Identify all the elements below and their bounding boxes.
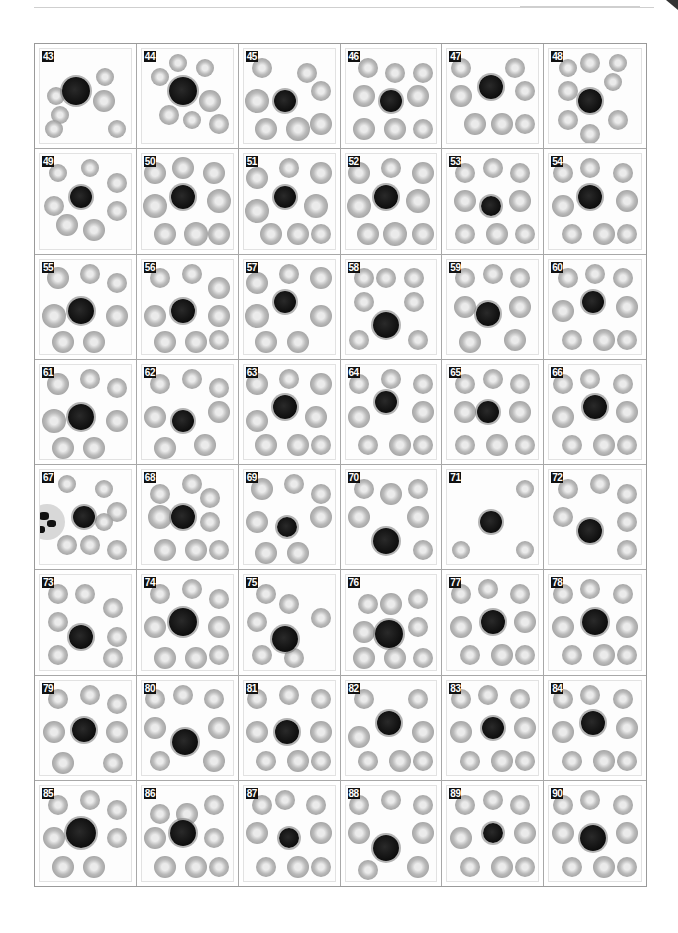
red-blood-cell <box>348 822 370 844</box>
red-blood-cell <box>256 857 276 877</box>
lymphocyte-nucleus <box>273 395 297 419</box>
lymphocyte-nucleus <box>171 505 195 529</box>
cell-number-label: 45 <box>246 51 258 62</box>
red-blood-cell <box>412 401 434 423</box>
red-blood-cell <box>580 685 600 705</box>
lymphocyte-nucleus <box>482 717 504 739</box>
cell-number-label: 51 <box>246 156 258 167</box>
micrograph-cell: 48 <box>544 44 646 149</box>
micrograph-image: 52 <box>345 153 438 249</box>
red-blood-cell <box>455 435 475 455</box>
micrograph-cell: 55 <box>35 255 137 360</box>
red-blood-cell <box>514 611 536 633</box>
red-blood-cell <box>311 751 331 771</box>
micrograph-cell: 74 <box>137 570 239 675</box>
red-blood-cell <box>383 222 407 246</box>
red-blood-cell <box>83 331 105 353</box>
red-blood-cell <box>48 645 68 665</box>
red-blood-cell <box>107 173 127 193</box>
cell-number-label: 50 <box>144 156 156 167</box>
red-blood-cell <box>275 790 295 810</box>
red-blood-cell <box>185 647 207 669</box>
red-blood-cell <box>150 484 170 504</box>
red-blood-cell <box>144 305 166 327</box>
red-blood-cell <box>562 751 582 771</box>
red-blood-cell <box>208 616 230 638</box>
red-blood-cell <box>353 85 375 107</box>
cell-number-label: 73 <box>42 577 54 588</box>
lymphocyte-nucleus <box>274 90 296 112</box>
micrograph-image: 47 <box>446 48 539 144</box>
red-blood-cell <box>196 59 214 77</box>
red-blood-cell <box>311 484 331 504</box>
micrograph-cell: 77 <box>442 570 544 675</box>
red-blood-cell <box>144 406 166 428</box>
red-blood-cell <box>609 54 627 72</box>
red-blood-cell <box>515 751 535 771</box>
cell-number-label: 66 <box>551 367 563 378</box>
red-blood-cell <box>203 750 225 772</box>
micrograph-image: 62 <box>141 364 234 460</box>
micrograph-image: 65 <box>446 364 539 460</box>
red-blood-cell <box>376 268 396 288</box>
red-blood-cell <box>208 277 230 299</box>
micrograph-image: 57 <box>243 259 336 355</box>
red-blood-cell <box>246 167 268 189</box>
red-blood-cell <box>413 119 433 139</box>
red-blood-cell <box>284 474 304 494</box>
lymphocyte-nucleus <box>72 718 96 742</box>
red-blood-cell <box>406 189 430 213</box>
red-blood-cell <box>255 434 277 456</box>
micrograph-cell: 85 <box>35 781 137 886</box>
red-blood-cell <box>552 721 574 743</box>
red-blood-cell <box>616 717 638 739</box>
red-blood-cell <box>305 406 327 428</box>
red-blood-cell <box>246 822 268 844</box>
micrograph-cell: 82 <box>341 676 443 781</box>
micrograph-image: 81 <box>243 680 336 776</box>
red-blood-cell <box>617 540 637 560</box>
red-blood-cell <box>204 828 224 848</box>
cell-number-label: 79 <box>42 683 54 694</box>
lymphocyte-nucleus <box>69 625 93 649</box>
red-blood-cell <box>48 612 68 632</box>
red-blood-cell <box>173 685 193 705</box>
micrograph-image: 67 <box>39 469 132 565</box>
red-blood-cell <box>347 194 371 218</box>
lymphocyte-nucleus <box>481 610 505 634</box>
red-blood-cell <box>310 506 332 528</box>
red-blood-cell <box>516 541 534 559</box>
micrograph-cell: 83 <box>442 676 544 781</box>
red-blood-cell <box>93 90 115 112</box>
cell-number-label: 65 <box>449 367 461 378</box>
red-blood-cell <box>204 689 224 709</box>
red-blood-cell <box>107 800 127 820</box>
red-blood-cell <box>478 685 498 705</box>
red-blood-cell <box>358 751 378 771</box>
red-blood-cell <box>413 374 433 394</box>
cell-number-label: 77 <box>449 577 461 588</box>
red-blood-cell <box>151 68 169 86</box>
micrograph-image: 76 <box>345 574 438 670</box>
red-blood-cell <box>515 435 535 455</box>
red-blood-cell <box>200 488 220 508</box>
red-blood-cell <box>504 329 526 351</box>
cell-number-label: 68 <box>144 472 156 483</box>
red-blood-cell <box>617 435 637 455</box>
red-blood-cell <box>310 113 332 135</box>
red-blood-cell <box>514 717 536 739</box>
micrograph-cell: 66 <box>544 360 646 465</box>
red-blood-cell <box>182 474 202 494</box>
cell-number-label: 86 <box>144 788 156 799</box>
red-blood-cell <box>412 162 434 184</box>
micrograph-cell: 73 <box>35 570 137 675</box>
red-blood-cell <box>389 434 411 456</box>
cell-number-label: 63 <box>246 367 258 378</box>
red-blood-cell <box>80 685 100 705</box>
red-blood-cell <box>381 369 401 389</box>
red-blood-cell <box>80 790 100 810</box>
red-blood-cell <box>306 795 326 815</box>
red-blood-cell <box>150 751 170 771</box>
red-blood-cell <box>509 401 531 423</box>
micrograph-image: 87 <box>243 785 336 882</box>
